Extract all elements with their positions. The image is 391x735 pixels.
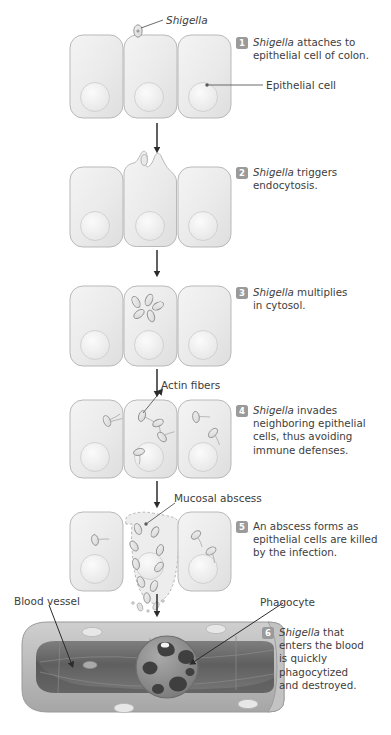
step-1-italic-term: Shigella bbox=[253, 36, 294, 48]
epithelial-cell bbox=[70, 512, 123, 591]
panel-3 bbox=[70, 286, 231, 366]
step-6-line-4: phagocytized bbox=[279, 666, 348, 678]
step-caption-3: 3 Shigella multiplies in cytosol. bbox=[236, 286, 388, 312]
panel-1 bbox=[70, 20, 263, 118]
step-4-line-2: neighboring epithelial bbox=[253, 417, 366, 429]
epithelial-cell bbox=[70, 167, 123, 247]
step-2-italic-term: Shigella bbox=[253, 166, 294, 178]
step-6-line-2: enters the blood bbox=[279, 639, 364, 651]
step-5-line-2: epithelial cells are killed bbox=[253, 533, 378, 545]
step-1-line-2: epithelial cell of colon. bbox=[253, 49, 369, 61]
leader-line-shigella bbox=[141, 20, 163, 28]
step-5-line-3: by the infection. bbox=[253, 546, 337, 558]
step-1-line-1: attaches to bbox=[294, 36, 355, 48]
step-4-italic-term: Shigella bbox=[253, 404, 294, 416]
step-badge-6: 6 bbox=[262, 627, 274, 639]
epithelial-cell-infected bbox=[124, 286, 177, 366]
step-2-line-1: triggers bbox=[294, 166, 337, 178]
shigella-infection-diagram bbox=[0, 0, 391, 735]
step-6-line-3: is quickly bbox=[279, 652, 327, 664]
epithelial-cell-endocytosis bbox=[124, 151, 177, 246]
step-text-6: Shigella that enters the blood is quickl… bbox=[279, 626, 388, 692]
epithelial-cell bbox=[70, 286, 123, 366]
step-caption-4: 4 Shigella invades neighboring epithelia… bbox=[236, 404, 388, 457]
step-2-line-2: endocytosis. bbox=[253, 179, 318, 191]
panel-5 bbox=[70, 503, 231, 612]
step-3-line-2: in cytosol. bbox=[253, 299, 306, 311]
step-text-5: An abscess forms as epithelial cells are… bbox=[253, 520, 388, 560]
step-caption-2: 2 Shigella triggers endocytosis. bbox=[236, 166, 388, 192]
step-text-4: Shigella invades neighboring epithelial … bbox=[253, 404, 388, 457]
step-3-italic-term: Shigella bbox=[253, 286, 294, 298]
panel-4 bbox=[70, 391, 231, 478]
mucosal-abscess-cell bbox=[126, 512, 179, 612]
epithelial-cell bbox=[178, 512, 231, 591]
step-text-2: Shigella triggers endocytosis. bbox=[253, 166, 388, 192]
step-text-3: Shigella multiplies in cytosol. bbox=[253, 286, 388, 312]
epithelial-cell bbox=[70, 35, 123, 118]
step-4-line-1: invades bbox=[294, 404, 337, 416]
panel-2 bbox=[70, 151, 231, 247]
step-5-line-1: An abscess forms as bbox=[253, 520, 358, 532]
callout-label-epithelial-cell: Epithelial cell bbox=[266, 79, 336, 92]
step-caption-1: 1 Shigella attaches to epithelial cell o… bbox=[236, 36, 388, 62]
callout-label-mucosal-abscess: Mucosal abscess bbox=[174, 492, 262, 505]
phagocyte bbox=[136, 636, 198, 698]
step-6-line-1: that bbox=[320, 626, 344, 638]
epithelial-cell bbox=[178, 286, 231, 366]
epithelial-cell bbox=[178, 35, 231, 118]
step-caption-5: 5 An abscess forms as epithelial cells a… bbox=[236, 520, 388, 560]
step-badge-1: 1 bbox=[236, 37, 248, 49]
callout-label-phagocyte: Phagocyte bbox=[260, 596, 315, 609]
callout-label-shigella: Shigella bbox=[166, 14, 208, 27]
epithelial-cell bbox=[124, 35, 177, 118]
epithelial-cell bbox=[70, 400, 123, 478]
callout-label-blood-vessel: Blood vessel bbox=[14, 595, 80, 608]
callout-label-actin-fibers: Actin fibers bbox=[161, 379, 220, 392]
step-caption-6: 6 Shigella that enters the blood is quic… bbox=[262, 626, 388, 692]
epithelial-cell bbox=[124, 400, 177, 478]
step-badge-2: 2 bbox=[236, 167, 248, 179]
epithelial-cell bbox=[178, 400, 231, 478]
step-3-line-1: multiplies bbox=[294, 286, 348, 298]
step-4-line-3: cells, thus avoiding bbox=[253, 430, 352, 442]
step-6-line-5: and destroyed. bbox=[279, 679, 356, 691]
epithelial-cell bbox=[178, 167, 231, 247]
step-6-italic-term: Shigella bbox=[279, 626, 320, 638]
step-4-line-4: immune defenses. bbox=[253, 444, 348, 456]
step-badge-3: 3 bbox=[236, 287, 248, 299]
figure-canvas: Shigella Epithelial cell Actin fibers Mu… bbox=[0, 0, 391, 735]
step-badge-4: 4 bbox=[236, 405, 248, 417]
step-badge-5: 5 bbox=[236, 521, 248, 533]
step-text-1: Shigella attaches to epithelial cell of … bbox=[253, 36, 388, 62]
panel-6-blood-vessel bbox=[22, 603, 284, 713]
